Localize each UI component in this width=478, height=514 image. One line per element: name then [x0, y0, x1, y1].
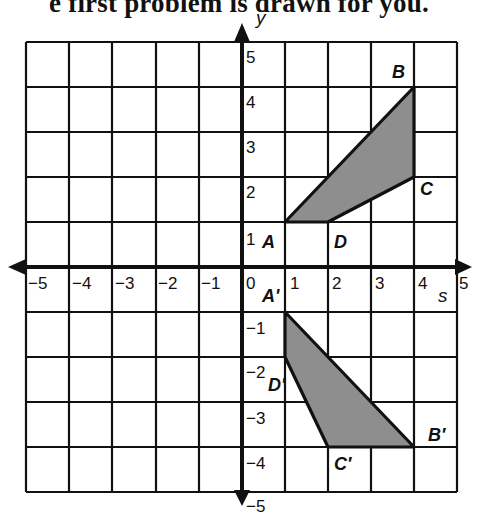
svg-text:5: 5 — [459, 274, 468, 293]
svg-text:1: 1 — [290, 274, 299, 293]
svg-text:4: 4 — [418, 274, 427, 293]
coordinate-plane: y s −5 −4 −3 −2 −1 0 1 2 3 4 5 5 4 3 2 1… — [0, 0, 478, 514]
svg-text:−4: −4 — [246, 454, 265, 473]
svg-text:−4: −4 — [72, 274, 91, 293]
svg-text:2: 2 — [332, 274, 341, 293]
svg-text:3: 3 — [375, 274, 384, 293]
vertex-label-b: B — [392, 62, 405, 82]
x-axis-right-arrow-icon — [455, 259, 472, 275]
svg-text:2: 2 — [246, 183, 255, 202]
svg-text:1: 1 — [246, 230, 255, 249]
vertex-label-c-prime: C′ — [334, 454, 352, 474]
svg-text:−2: −2 — [158, 274, 177, 293]
vertex-label-d-prime: D' — [268, 375, 286, 395]
svg-text:−5: −5 — [246, 497, 265, 514]
svg-text:−2: −2 — [246, 363, 265, 382]
svg-text:−3: −3 — [246, 409, 265, 428]
vertex-label-b-prime: B′ — [428, 425, 446, 445]
figure-abcd-prime — [285, 312, 414, 447]
y-axis-label: y — [254, 7, 267, 28]
svg-text:−5: −5 — [28, 274, 47, 293]
vertex-label-a: A — [261, 232, 275, 252]
svg-text:0: 0 — [246, 274, 255, 293]
vertex-label-c: C — [420, 179, 434, 199]
svg-text:−3: −3 — [115, 274, 134, 293]
y-axis-up-arrow-icon — [234, 23, 250, 42]
vertex-label-a-prime: A' — [261, 286, 280, 306]
svg-text:5: 5 — [246, 48, 255, 67]
x-axis-label: s — [438, 285, 448, 306]
figure-abcd — [285, 87, 414, 222]
svg-text:−1: −1 — [246, 319, 265, 338]
x-tick-labels: −5 −4 −3 −2 −1 0 1 2 3 4 5 — [28, 274, 468, 293]
svg-text:−1: −1 — [201, 274, 220, 293]
vertex-label-d: D — [334, 232, 347, 252]
x-axis-left-arrow-icon — [8, 259, 26, 275]
svg-text:3: 3 — [246, 138, 255, 157]
svg-text:4: 4 — [246, 93, 255, 112]
